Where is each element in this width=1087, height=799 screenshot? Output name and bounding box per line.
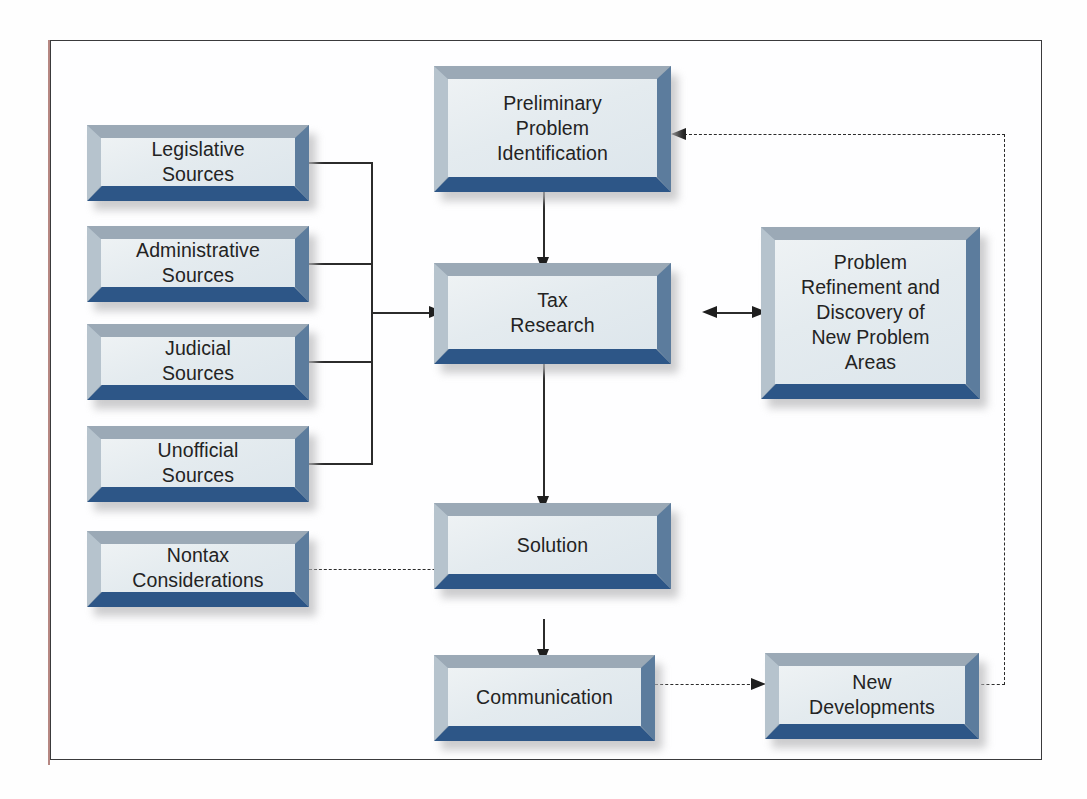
node-label: Tax Research — [506, 288, 598, 338]
bevel-bottom — [434, 574, 671, 589]
bevel-left — [434, 503, 448, 589]
arrowhead-into-new-developments-left — [751, 678, 766, 690]
bevel-right — [657, 263, 671, 364]
bevel-right — [295, 531, 309, 607]
bevel-right — [295, 426, 309, 502]
diagram-canvas: Legislative Sources Administrative Sourc… — [0, 0, 1087, 799]
bevel-left — [87, 125, 101, 201]
edge-legislative-stub — [308, 162, 372, 164]
bevel-right — [966, 227, 980, 399]
diagram-frame: Legislative Sources Administrative Sourc… — [50, 40, 1042, 760]
bevel-left — [434, 66, 448, 192]
edge-feedback-to-preliminary — [684, 134, 1005, 135]
bevel-bottom — [87, 385, 309, 400]
node-administrative-sources[interactable]: Administrative Sources — [87, 226, 309, 302]
node-unofficial-sources[interactable]: Unofficial Sources — [87, 426, 309, 502]
bevel-bottom — [87, 186, 309, 201]
bevel-top — [434, 263, 671, 276]
bevel-right — [657, 66, 671, 192]
bevel-left — [761, 227, 775, 399]
edge-preliminary-to-tax-research — [543, 191, 545, 264]
node-face: Judicial Sources — [101, 337, 295, 385]
node-label: Legislative Sources — [147, 137, 248, 187]
bevel-bottom — [87, 487, 309, 502]
node-label: Judicial Sources — [158, 336, 238, 386]
bevel-bottom — [87, 287, 309, 302]
bevel-bottom — [761, 384, 980, 399]
bevel-right — [965, 653, 979, 739]
bevel-left — [87, 324, 101, 400]
node-face: Solution — [448, 516, 657, 574]
node-label: Problem Refinement and Discovery of New … — [797, 250, 944, 375]
node-label: Nontax Considerations — [128, 543, 267, 593]
node-label: Solution — [513, 533, 592, 558]
node-problem-refinement[interactable]: Problem Refinement and Discovery of New … — [761, 227, 980, 399]
edge-communication-to-new-developments — [655, 684, 755, 685]
bevel-top — [761, 227, 980, 240]
arrowhead-toward-tax-research — [702, 306, 717, 318]
node-legislative-sources[interactable]: Legislative Sources — [87, 125, 309, 201]
node-face: Problem Refinement and Discovery of New … — [775, 240, 966, 384]
edge-administrative-stub — [308, 263, 372, 265]
bevel-left — [87, 531, 101, 607]
node-communication[interactable]: Communication — [434, 655, 655, 741]
node-face: Preliminary Problem Identification — [448, 79, 657, 177]
bevel-top — [434, 503, 671, 516]
bevel-left — [434, 263, 448, 364]
node-face: Tax Research — [448, 276, 657, 349]
bevel-right — [657, 503, 671, 589]
node-label: Communication — [472, 685, 617, 710]
edge-tax-research-to-solution — [543, 363, 545, 503]
node-label: Preliminary Problem Identification — [493, 91, 612, 166]
node-solution[interactable]: Solution — [434, 503, 671, 589]
node-new-developments[interactable]: New Developments — [765, 653, 979, 739]
node-judicial-sources[interactable]: Judicial Sources — [87, 324, 309, 400]
bevel-bottom — [765, 724, 979, 739]
node-face: Legislative Sources — [101, 138, 295, 186]
node-nontax-considerations[interactable]: Nontax Considerations — [87, 531, 309, 607]
node-face: Nontax Considerations — [101, 544, 295, 592]
bevel-right — [295, 125, 309, 201]
node-face: New Developments — [779, 666, 965, 724]
bevel-right — [641, 655, 655, 741]
bevel-left — [87, 426, 101, 502]
bevel-left — [765, 653, 779, 739]
edge-judicial-stub — [308, 361, 372, 363]
edge-unofficial-stub — [308, 463, 372, 465]
bevel-left — [434, 655, 448, 741]
node-label: Administrative Sources — [132, 238, 264, 288]
bevel-right — [295, 226, 309, 302]
edge-sources-bus-to-tax-research — [371, 312, 431, 314]
node-face: Communication — [448, 668, 641, 726]
bevel-bottom — [87, 592, 309, 607]
node-label: New Developments — [805, 670, 939, 720]
bevel-top — [765, 653, 979, 666]
bevel-bottom — [434, 177, 671, 192]
bevel-left — [87, 226, 101, 302]
bevel-bottom — [434, 726, 655, 741]
bevel-top — [434, 66, 671, 79]
bevel-right — [295, 324, 309, 400]
node-face: Administrative Sources — [101, 239, 295, 287]
edge-feedback-riser — [1004, 134, 1005, 685]
node-preliminary-problem-identification[interactable]: Preliminary Problem Identification — [434, 66, 671, 192]
node-tax-research[interactable]: Tax Research — [434, 263, 671, 364]
bevel-top — [434, 655, 655, 668]
bevel-bottom — [434, 349, 671, 364]
node-label: Unofficial Sources — [154, 438, 243, 488]
node-face: Unofficial Sources — [101, 439, 295, 487]
